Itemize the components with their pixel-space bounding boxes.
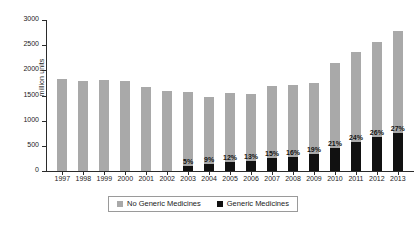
- y-tick: 0: [42, 171, 46, 172]
- bar-value-label: 21%: [326, 140, 344, 147]
- plot-area: 050010001500200025003000 5%9%12%13%15%16…: [46, 20, 414, 171]
- bar-no-generic-medicines[interactable]: [246, 94, 256, 161]
- bar-generic-medicines[interactable]: [351, 142, 361, 171]
- bar-value-label: 5%: [179, 158, 197, 165]
- bar-value-label: 16%: [284, 149, 302, 156]
- bar-no-generic-medicines[interactable]: [162, 91, 172, 171]
- bar-generic-medicines[interactable]: [225, 162, 235, 171]
- y-tick: 2000: [42, 70, 46, 71]
- bar-chart: million units 050010001500200025003000 5…: [0, 0, 420, 229]
- bar-value-label: 24%: [347, 134, 365, 141]
- y-axis-title: million units: [38, 43, 45, 113]
- legend-label: No Generic Medicines: [127, 199, 201, 208]
- bar-no-generic-medicines[interactable]: [225, 93, 235, 161]
- bar-no-generic-medicines[interactable]: [141, 87, 151, 171]
- legend-swatch-icon-black: [217, 201, 223, 207]
- y-tick-label: 2500: [23, 40, 39, 47]
- y-tick-label: 1500: [23, 91, 39, 98]
- bar-value-label: 15%: [263, 150, 281, 157]
- y-tick-label: 500: [27, 141, 39, 148]
- y-tick: 3000: [42, 20, 46, 21]
- chart-legend: No Generic Medicines Generic Medicines: [108, 196, 298, 212]
- y-tick-label: 2000: [23, 65, 39, 72]
- bar-no-generic-medicines[interactable]: [351, 52, 361, 143]
- bar-no-generic-medicines[interactable]: [120, 81, 130, 171]
- bar-generic-medicines[interactable]: [204, 164, 214, 171]
- bar-value-label: 13%: [242, 153, 260, 160]
- bar-value-label: 19%: [305, 146, 323, 153]
- y-axis-line: [46, 20, 47, 171]
- bar-value-label: 12%: [221, 154, 239, 161]
- bar-value-label: 27%: [389, 125, 407, 132]
- bar-no-generic-medicines[interactable]: [57, 79, 67, 171]
- bar-no-generic-medicines[interactable]: [330, 63, 340, 149]
- legend-item-no-generic: No Generic Medicines: [117, 199, 201, 208]
- bar-no-generic-medicines[interactable]: [183, 92, 193, 166]
- y-tick-label: 3000: [23, 15, 39, 22]
- bar-no-generic-medicines[interactable]: [99, 80, 109, 171]
- bar-generic-medicines[interactable]: [330, 148, 340, 171]
- bar-generic-medicines[interactable]: [246, 161, 256, 171]
- bar-no-generic-medicines[interactable]: [372, 42, 382, 138]
- y-tick: 1500: [42, 96, 46, 97]
- bar-generic-medicines[interactable]: [372, 137, 382, 171]
- y-tick-label: 0: [35, 166, 39, 173]
- x-axis-label: 2013: [385, 175, 411, 182]
- bar-no-generic-medicines[interactable]: [393, 31, 403, 133]
- bar-generic-medicines[interactable]: [309, 154, 319, 171]
- y-tick: 2500: [42, 45, 46, 46]
- bar-generic-medicines[interactable]: [183, 166, 193, 171]
- y-tick: 500: [42, 146, 46, 147]
- bar-value-label: 9%: [200, 156, 218, 163]
- bar-no-generic-medicines[interactable]: [204, 97, 214, 164]
- legend-swatch-icon-gray: [117, 201, 123, 207]
- y-tick: 1000: [42, 121, 46, 122]
- y-tick-label: 1000: [23, 116, 39, 123]
- bar-generic-medicines[interactable]: [393, 133, 403, 171]
- bar-no-generic-medicines[interactable]: [288, 85, 298, 157]
- bar-no-generic-medicines[interactable]: [309, 83, 319, 154]
- bar-generic-medicines[interactable]: [267, 158, 277, 171]
- bar-no-generic-medicines[interactable]: [78, 81, 88, 171]
- bar-no-generic-medicines[interactable]: [267, 86, 277, 158]
- legend-label: Generic Medicines: [227, 199, 289, 208]
- bar-value-label: 26%: [368, 129, 386, 136]
- legend-item-generic: Generic Medicines: [217, 199, 289, 208]
- bar-generic-medicines[interactable]: [288, 157, 298, 171]
